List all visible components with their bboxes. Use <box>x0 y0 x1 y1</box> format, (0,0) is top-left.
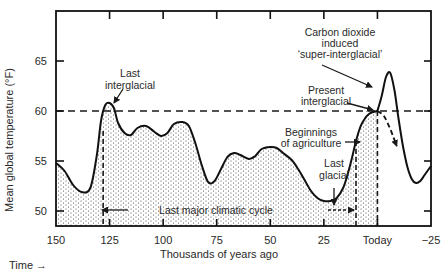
x-axis-title: Thousands of years ago <box>160 248 278 260</box>
x-tick-label: 100 <box>154 234 172 246</box>
x-tick-label: Today <box>363 234 393 246</box>
x-tick-label: 150 <box>47 234 65 246</box>
annotation-last-interglacial-line1: Last <box>120 67 140 79</box>
annotation-last-glacial-line1: Last <box>324 157 344 169</box>
annotation-present-line2: interglacial <box>301 95 351 107</box>
y-tick-label: 50 <box>35 205 47 217</box>
annotation-co2-line3: ‘super-interglacial’ <box>298 48 383 60</box>
annotation-last-interglacial-line2: interglacial <box>105 79 155 91</box>
x-tick-label: 50 <box>264 234 276 246</box>
x-tick-label: 125 <box>100 234 118 246</box>
x-tick-label: 75 <box>211 234 223 246</box>
y-tick-label: 55 <box>35 155 47 167</box>
annotation-agriculture-line2: of agriculture <box>281 137 342 149</box>
annotation-climatic-cycle: Last major climatic cycle <box>159 204 273 216</box>
y-tick-label: 65 <box>35 55 47 67</box>
arrow-last-interglacial <box>114 89 123 103</box>
annotation-last-glacial-line2: glacial <box>319 169 349 181</box>
y-tick-label: 60 <box>35 105 47 117</box>
time-arrow-label: Time → <box>9 259 47 271</box>
y-axis-title: Mean global temperature (°F) <box>3 68 15 212</box>
series-super-interglacial <box>377 72 431 183</box>
x-tick-label: −25 <box>422 234 441 246</box>
series-cooling-projection <box>377 111 396 146</box>
x-tick-label: 25 <box>318 234 330 246</box>
climate-chart: 150125100755025Today−2550556065 Last int… <box>0 0 448 278</box>
chart-canvas: 150125100755025Today−2550556065 Last int… <box>0 0 448 278</box>
